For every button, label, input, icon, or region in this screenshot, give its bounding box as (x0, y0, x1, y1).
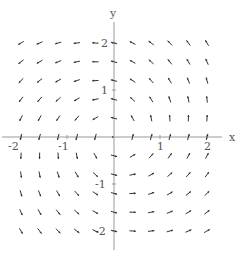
arrowhead-icon (39, 157, 41, 159)
vector-field-plot: x -2 -1 1 2 y 2 1 -1 -2 (0, 0, 248, 262)
y-axis-label: y (109, 7, 117, 20)
x-tick-label-neg1: -1 (58, 140, 69, 153)
arrowhead-icon (92, 42, 94, 44)
arrowhead-icon (134, 192, 136, 194)
arrowhead-icon (134, 211, 136, 213)
x-axis-label: x (229, 131, 236, 144)
arrowhead-icon (57, 157, 59, 159)
y-tick-label-pos2: 2 (101, 37, 108, 50)
x-axis: x -2 -1 1 2 (2, 131, 236, 153)
x-tick-label-neg2: -2 (8, 140, 19, 153)
x-tick-label-pos2: 2 (204, 140, 211, 153)
arrowhead-icon (20, 157, 22, 159)
arrowhead-icon (187, 115, 189, 117)
x-tick-label-pos1: 1 (157, 140, 164, 153)
arrowhead-icon (92, 80, 94, 82)
y-tick-label-pos1: 1 (101, 84, 108, 97)
arrowhead-icon (169, 115, 171, 117)
arrowhead-icon (92, 61, 94, 63)
arrowhead-icon (134, 230, 136, 232)
arrowhead-icon (206, 115, 208, 117)
y-tick-label-neg1: -1 (95, 178, 106, 191)
